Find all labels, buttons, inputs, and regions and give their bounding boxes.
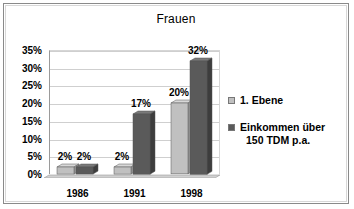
bar-1991-series2 xyxy=(133,111,157,176)
x-axis-category-1986: 1986 xyxy=(55,188,101,199)
y-axis-tick-label: 30% xyxy=(6,62,42,73)
chart-title: Frauen xyxy=(4,12,348,26)
plot-area: 2%2%2%17%20%32% xyxy=(44,50,220,182)
bar-value-label: 17% xyxy=(127,98,156,109)
chart-legend: 1. EbeneEinkommen über150 TDM p.a. xyxy=(228,94,352,161)
legend-label: Einkommen über xyxy=(240,121,325,133)
legend-entry-1[interactable]: 1. Ebene xyxy=(228,94,352,107)
legend-entry-2[interactable]: Einkommen über150 TDM p.a. xyxy=(228,121,352,147)
bar-value-label: 32% xyxy=(184,45,213,56)
x-axis-category-1998: 1998 xyxy=(169,188,215,199)
legend-label: 1. Ebene xyxy=(240,94,283,106)
y-axis-tick-label: 25% xyxy=(6,80,42,91)
y-axis-tick-label: 35% xyxy=(6,45,42,56)
chart-screenshot: Frauen 0%5%10%15%20%25%30%35% 2%2%2%17%2… xyxy=(0,0,354,209)
y-axis-tick-label: 10% xyxy=(6,133,42,144)
y-axis-labels: 0%5%10%15%20%25%30%35% xyxy=(6,44,42,184)
y-axis-tick-label: 5% xyxy=(6,151,42,162)
x-axis-labels: 198619911998 xyxy=(44,188,220,204)
chart-frame: Frauen 0%5%10%15%20%25%30%35% 2%2%2%17%2… xyxy=(3,3,349,204)
bar-1986-series2 xyxy=(76,164,100,176)
x-axis-category-1991: 1991 xyxy=(112,188,158,199)
legend-swatch-icon xyxy=(228,97,235,104)
legend-swatch-icon xyxy=(228,124,235,131)
legend-label-line2: 150 TDM p.a. xyxy=(240,134,352,147)
bar-value-label: 2% xyxy=(70,151,99,162)
bars-layer: 2%2%2%17%20%32% xyxy=(44,50,220,182)
y-axis-tick-label: 0% xyxy=(6,169,42,180)
bar-1998-series2 xyxy=(190,58,214,176)
y-axis-tick-label: 20% xyxy=(6,98,42,109)
y-axis-tick-label: 15% xyxy=(6,115,42,126)
